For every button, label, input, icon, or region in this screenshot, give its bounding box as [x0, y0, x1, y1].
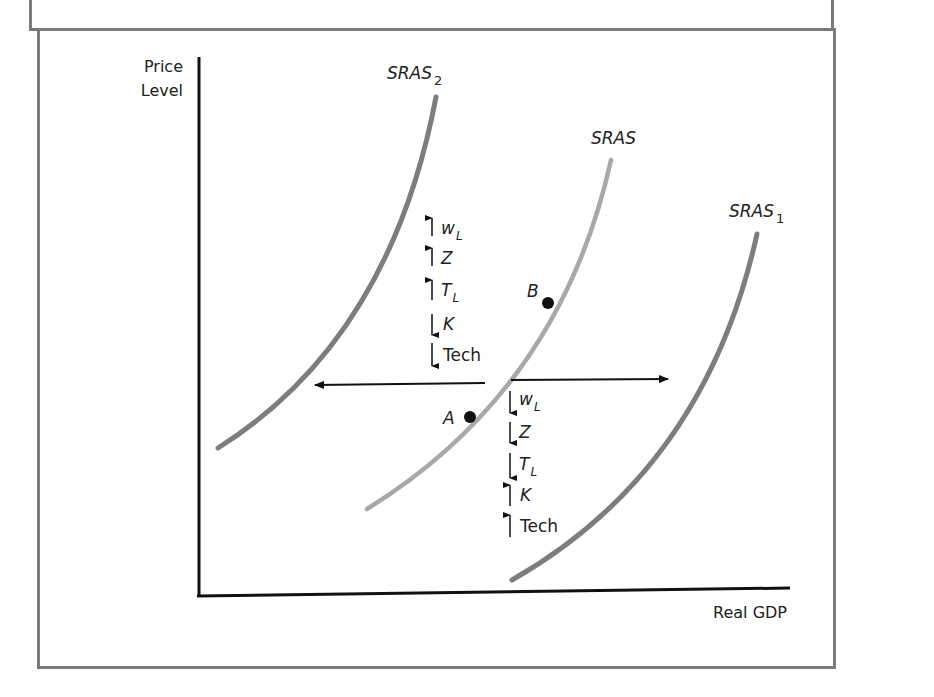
- svg-text:K: K: [443, 314, 456, 334]
- point-a-label: A: [442, 408, 455, 428]
- shift-left-arrow: [315, 383, 485, 385]
- x-axis: [197, 588, 790, 596]
- svg-text:TL: TL: [441, 280, 459, 305]
- point-b: [542, 297, 554, 309]
- svg-text:wL: wL: [519, 389, 541, 414]
- sras-shift-diagram: Price Level Real GDP SRAS2 SRAS SRAS1 B …: [0, 0, 934, 697]
- axes: [197, 57, 790, 597]
- sras1-label: SRAS1: [729, 201, 784, 226]
- point-a: [464, 411, 476, 423]
- sras-label: SRAS: [591, 128, 636, 148]
- point-b-label: B: [527, 281, 539, 301]
- svg-text:wL: wL: [441, 218, 463, 243]
- svg-text:Tech: Tech: [519, 516, 558, 536]
- svg-text:Z: Z: [440, 248, 453, 268]
- svg-text:TL: TL: [519, 454, 537, 479]
- left-shift-factors: wL Z TL K Tech: [432, 218, 481, 366]
- svg-text:K: K: [520, 485, 533, 505]
- svg-text:Tech: Tech: [442, 345, 481, 365]
- svg-text:Z: Z: [518, 422, 531, 442]
- sras2-label: SRAS2: [387, 63, 442, 88]
- sras2-curve: [218, 97, 436, 448]
- right-shift-factors: wL Z TL K Tech: [510, 389, 558, 537]
- y-axis-label: Level: [141, 81, 183, 100]
- y-axis-label: Price: [144, 57, 183, 76]
- shift-right-arrow: [511, 379, 668, 380]
- x-axis-label: Real GDP: [713, 603, 787, 622]
